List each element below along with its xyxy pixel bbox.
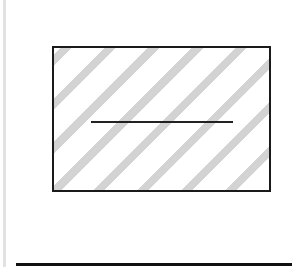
center-line — [91, 121, 233, 123]
hatched-rectangle — [52, 46, 271, 192]
left-divider-bar — [3, 0, 6, 267]
bottom-rule — [16, 263, 292, 266]
